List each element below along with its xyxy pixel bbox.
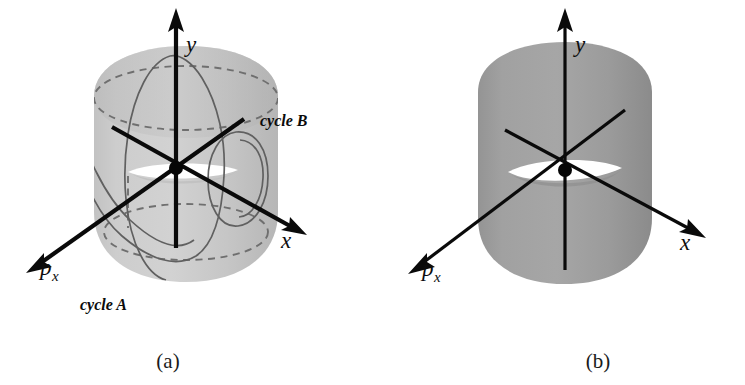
panel-b: y x p x (b) [408,8,706,373]
axis-label-x-a: x [280,228,292,253]
panel-caption-b: (b) [586,349,611,373]
axis-label-px-a: p x [38,255,59,284]
axis-label-y-a: y [184,32,197,57]
axis-label-px-b: p x [420,256,441,285]
cycle-b-label: cycle B [260,112,308,130]
axis-label-px-base-b: p [420,256,434,281]
figure-root: y x p x cycle B cycle A (a) [0,0,745,385]
axis-label-x-b: x [679,230,691,255]
origin-dot-a [169,161,183,175]
cycle-a-label: cycle A [80,296,127,314]
origin-dot-b [558,163,572,177]
panel-caption-a: (a) [156,349,179,373]
axis-label-px-sub-a: x [51,268,59,284]
axis-label-y-b: y [573,32,586,57]
panel-a: y x p x cycle B cycle A (a) [26,8,308,373]
axis-label-px-sub-b: x [433,269,441,285]
axis-label-px-base-a: p [38,255,52,280]
